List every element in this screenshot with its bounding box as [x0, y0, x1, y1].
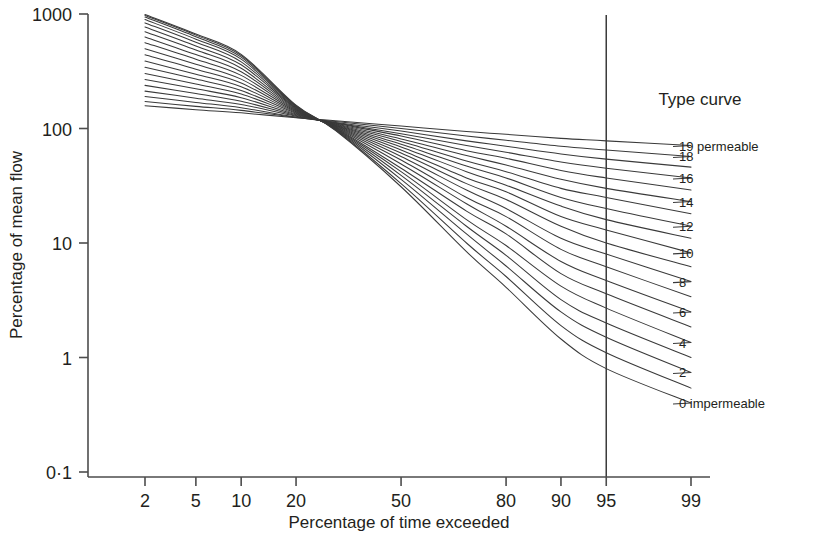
legend-entry-label: 2: [679, 365, 686, 380]
y-tick-label: 0·1: [46, 463, 72, 483]
x-tick-label: 20: [286, 491, 306, 511]
y-axis-title: Percentage of mean flow: [7, 150, 26, 339]
legend-entry-label: 10: [679, 246, 693, 261]
legend-entry-label: 0 impermeable: [679, 396, 765, 411]
y-tick-label: 1: [62, 349, 72, 369]
x-tick-label: 50: [391, 491, 411, 511]
x-tick-label: 80: [496, 491, 516, 511]
legend-entry-label: 16: [679, 171, 693, 186]
x-tick-label: 5: [191, 491, 201, 511]
chart-background: [0, 0, 813, 535]
x-tick-label: 10: [231, 491, 251, 511]
legend-entry-label: 4: [679, 336, 686, 351]
x-axis-title: Percentage of time exceeded: [288, 513, 509, 532]
legend-entry-label: 14: [679, 195, 693, 210]
legend-entry-label: 8: [679, 275, 686, 290]
y-tick-label: 10: [52, 234, 72, 254]
x-tick-label: 90: [551, 491, 571, 511]
flow-duration-type-curve-chart: 10001001010·1 2510205080909599 19 permea…: [0, 0, 813, 535]
x-tick-label: 95: [596, 491, 616, 511]
legend-entry-label: 12: [679, 219, 693, 234]
y-tick-label: 100: [42, 120, 72, 140]
x-tick-label: 2: [140, 491, 150, 511]
legend-entry-label: 6: [679, 305, 686, 320]
legend-entry-label: 18: [679, 149, 693, 164]
legend-title: Type curve: [658, 90, 741, 109]
x-tick-label: 99: [681, 491, 701, 511]
y-tick-label: 1000: [32, 5, 72, 25]
